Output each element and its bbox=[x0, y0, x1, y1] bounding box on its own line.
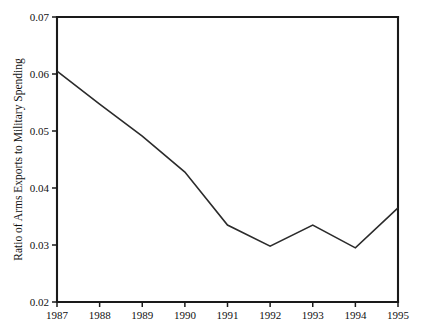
y-tick-label-5: 0.07 bbox=[30, 11, 50, 23]
y-tick-label-4: 0.06 bbox=[30, 68, 50, 80]
chart-figure: 0.020.030.040.050.060.07 198719881989199… bbox=[0, 0, 421, 332]
tick-marks bbox=[52, 17, 398, 307]
x-tick-label-1: 1988 bbox=[89, 309, 112, 321]
y-axis-tick-labels: 0.020.030.040.050.060.07 bbox=[30, 11, 50, 308]
y-axis-label-text: Ratio of Arms Exports to Military Spendi… bbox=[12, 58, 25, 261]
x-tick-label-8: 1995 bbox=[387, 309, 410, 321]
x-tick-label-0: 1987 bbox=[46, 309, 69, 321]
y-tick-label-2: 0.04 bbox=[30, 182, 50, 194]
y-tick-label-0: 0.02 bbox=[30, 296, 49, 308]
x-axis-tick-labels: 198719881989199019911992199319941995 bbox=[46, 309, 410, 321]
x-tick-label-6: 1993 bbox=[302, 309, 325, 321]
data-series-line bbox=[57, 71, 398, 248]
x-tick-label-4: 1991 bbox=[217, 309, 239, 321]
series-line-0 bbox=[57, 71, 398, 248]
y-tick-label-3: 0.05 bbox=[30, 125, 50, 137]
y-tick-label-1: 0.03 bbox=[30, 239, 50, 251]
x-tick-label-3: 1990 bbox=[174, 309, 197, 321]
chart-axes bbox=[57, 17, 398, 302]
x-tick-label-7: 1994 bbox=[344, 309, 367, 321]
line-chart: 0.020.030.040.050.060.07 198719881989199… bbox=[0, 0, 421, 332]
x-tick-label-5: 1992 bbox=[259, 309, 281, 321]
y-axis-title: Ratio of Arms Exports to Military Spendi… bbox=[12, 58, 25, 261]
x-tick-label-2: 1989 bbox=[131, 309, 154, 321]
